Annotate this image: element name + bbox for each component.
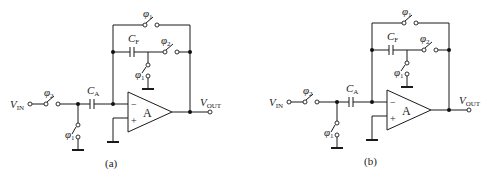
svg-text:φ2: φ2	[420, 32, 430, 46]
opamp: − + A	[128, 92, 172, 132]
svg-text:φ2: φ2	[303, 84, 313, 98]
vout-terminal	[208, 110, 212, 114]
input-switch-phi2: φ2	[303, 84, 319, 104]
svg-text:A: A	[402, 104, 411, 118]
sampling-capacitor-ca: CA	[346, 82, 358, 107]
feedback-capacitor-cf: CF	[387, 30, 398, 55]
svg-text:φ1: φ1	[143, 7, 153, 21]
svg-text:−: −	[390, 97, 396, 108]
svg-text:CA: CA	[87, 84, 99, 98]
vout-label: VOUT	[200, 96, 222, 110]
feedback-series-switch-phi2: φ2	[161, 34, 179, 54]
vin-label: VIN	[10, 98, 24, 112]
shunt-switch-phi1: φ1	[65, 104, 84, 150]
reset-switch-phi1: φ1	[143, 7, 159, 27]
feedback-ground-switch-phi1: φ1	[394, 50, 413, 87]
svg-text:CF: CF	[387, 30, 398, 44]
input-switch-phi2: φ2	[44, 86, 60, 106]
feedback-capacitor-cf: CF	[128, 32, 139, 57]
svg-text:φ1: φ1	[402, 5, 412, 19]
vin-terminal	[28, 102, 32, 106]
vout-terminal	[467, 108, 471, 112]
svg-text:φ2: φ2	[161, 34, 171, 48]
svg-text:φ2: φ2	[44, 86, 54, 100]
feedback-series-switch-phi2: φ2	[420, 32, 438, 52]
opamp: − + A	[387, 90, 431, 130]
svg-text:+: +	[390, 113, 396, 124]
circuit-figure: φ2 φ1 CA φ1	[0, 0, 487, 181]
panel-caption: (a)	[105, 157, 118, 170]
circuit-panel-a: φ2 φ1 CA φ1	[10, 7, 222, 170]
svg-text:φ1: φ1	[324, 126, 334, 140]
sampling-capacitor-ca: CA	[87, 84, 99, 109]
svg-text:A: A	[143, 106, 152, 120]
vin-label: VIN	[269, 96, 283, 110]
vout-label: VOUT	[459, 94, 481, 108]
circuit-panel-b: φ2 φ1 CA φ1	[269, 5, 481, 168]
svg-text:CF: CF	[128, 32, 139, 46]
svg-text:−: −	[131, 99, 137, 110]
reset-switch-phi1: φ1	[402, 5, 418, 25]
shunt-switch-phi1: φ1	[324, 102, 343, 148]
feedback-ground-switch-phi1: φ1	[135, 52, 154, 89]
svg-text:φ1: φ1	[65, 128, 75, 142]
svg-text:+: +	[131, 115, 137, 126]
vin-terminal	[287, 100, 291, 104]
panel-caption: (b)	[364, 155, 377, 168]
svg-text:CA: CA	[346, 82, 358, 96]
